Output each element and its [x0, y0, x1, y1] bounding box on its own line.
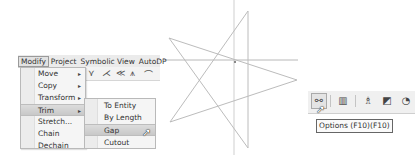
toolbar-separator [330, 95, 331, 107]
extend-tool-icon[interactable]: ⋌ [102, 68, 111, 78]
modify-dropdown: Move ▸ Copy ▸ Transform ▸ Trim ▸ Stretch… [20, 67, 86, 149]
origin-marker [234, 61, 236, 63]
options-tooltip: Options (F10)(F10) [316, 119, 393, 133]
star-shape[interactable] [169, 11, 297, 148]
trim-submenu: To Entity By Length Gap Cutout [84, 98, 156, 149]
mouse-cursor-icon: ➚ [142, 126, 151, 139]
mouse-cursor-icon: ➚ [316, 103, 325, 116]
toolbar-separator [355, 95, 356, 107]
submenu-item-to-entity[interactable]: To Entity [85, 100, 155, 112]
menu-item-label: Stretch... [38, 117, 72, 127]
submenu-arrow-icon: ▸ [78, 94, 81, 101]
submenu-arrow-icon: ▸ [78, 107, 81, 114]
menu-item-dechain[interactable]: Dechain [21, 140, 85, 148]
view-partial-icon[interactable]: ◔ [399, 94, 413, 108]
menu-modify[interactable]: Modify [18, 56, 49, 67]
menu-item-trim[interactable]: Trim ▸ [21, 104, 85, 116]
grid-icon[interactable]: ▥ [336, 94, 350, 108]
offset-tool-icon[interactable]: ≪ [116, 68, 125, 78]
zoom-window-icon[interactable]: ◩ [380, 94, 394, 108]
menu-item-label: Copy [38, 81, 57, 91]
menu-item-label: Trim [38, 106, 54, 116]
menu-item-label: Transform [38, 93, 75, 103]
menu-item-label: Chain [38, 129, 59, 139]
menu-item-copy[interactable]: Copy ▸ [21, 80, 85, 92]
menu-item-label: To Entity [104, 101, 136, 111]
menu-project[interactable]: Project [49, 56, 79, 67]
menu-item-label: Dechain [38, 141, 69, 148]
arc-tool-icon[interactable]: ⌒ [144, 68, 153, 81]
modify-toolbar: ⋎ ⋌ ≪ ⩚ ⌒ [84, 67, 160, 81]
submenu-item-by-length[interactable]: By Length [85, 112, 155, 124]
submenu-arrow-icon: ▸ [78, 70, 81, 77]
menu-item-label: By Length [104, 113, 142, 123]
menu-item-move[interactable]: Move ▸ [21, 68, 85, 80]
paint-brush-icon[interactable]: ♗ [361, 94, 375, 108]
menu-autodp[interactable]: AutoDP [137, 56, 169, 67]
fillet-tool-icon[interactable]: ⩚ [130, 68, 135, 79]
menu-item-stretch[interactable]: Stretch... [21, 116, 85, 128]
menu-symbolic-view[interactable]: Symbolic View [79, 56, 137, 67]
menu-item-label: Cutout [104, 138, 129, 148]
menu-item-chain[interactable]: Chain [21, 128, 85, 140]
menu-item-label: Move [38, 69, 58, 79]
menu-item-label: Gap [104, 126, 119, 136]
trim-tool-icon[interactable]: ⋎ [88, 68, 95, 78]
submenu-arrow-icon: ▸ [78, 82, 81, 89]
menu-item-transform[interactable]: Transform ▸ [21, 92, 85, 104]
